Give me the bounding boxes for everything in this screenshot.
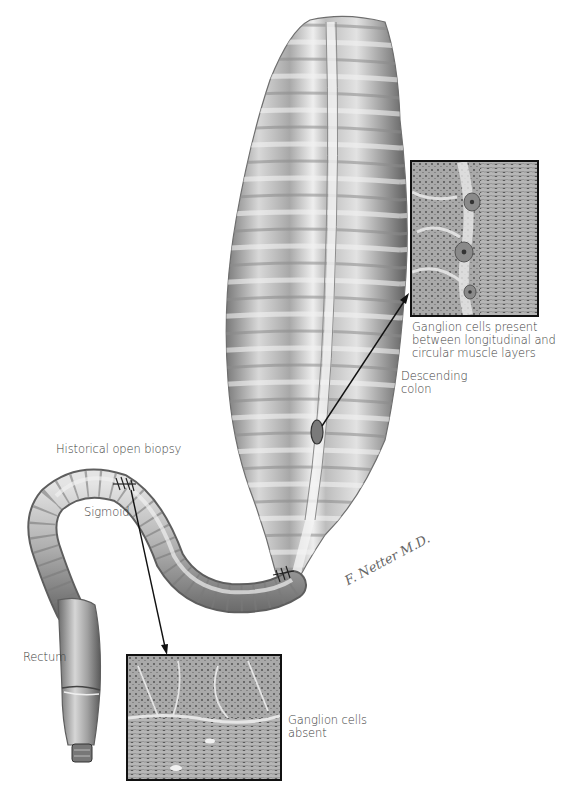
- histology-inset-ganglion-present: [410, 160, 539, 317]
- histology-inset-ganglion-absent: [126, 654, 282, 781]
- rectum: [58, 598, 100, 762]
- descending-colon: [226, 16, 407, 592]
- label-line: colon: [401, 383, 467, 396]
- label-rectum: Rectum: [23, 651, 66, 664]
- medical-illustration: Ganglion cells present between longitudi…: [0, 0, 562, 803]
- label-sigmoid: Sigmoid: [84, 506, 129, 519]
- label-ganglion-present: Ganglion cells present between longitudi…: [412, 321, 556, 360]
- label-historical-open-biopsy: Historical open biopsy: [56, 443, 181, 456]
- label-ganglion-absent: Ganglion cells absent: [288, 714, 367, 740]
- label-line: circular muscle layers: [412, 347, 556, 360]
- label-line: absent: [288, 727, 367, 740]
- label-descending-colon: Descending colon: [401, 370, 467, 396]
- biopsy-site-descending: [311, 420, 323, 444]
